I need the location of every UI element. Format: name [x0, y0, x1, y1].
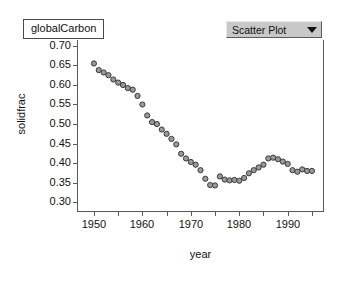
data-point: [111, 77, 116, 82]
data-point: [193, 162, 198, 167]
y-tick-label: 0.65: [29, 59, 71, 70]
scatter-plot-app: globalCarbon Scatter Plot 0.300.350.400.…: [0, 0, 339, 281]
data-point: [130, 87, 135, 92]
data-point: [169, 136, 174, 141]
data-point: [203, 176, 208, 181]
x-tick-label: 1970: [171, 218, 211, 230]
data-point: [101, 70, 106, 75]
data-point: [285, 161, 290, 166]
data-point: [106, 73, 111, 78]
dataset-title: globalCarbon: [23, 19, 104, 39]
data-point: [309, 168, 314, 173]
data-point: [154, 121, 159, 126]
data-point: [188, 159, 193, 164]
data-point: [246, 171, 251, 176]
x-tick-label: 1990: [268, 218, 308, 230]
chevron-down-icon: [307, 27, 317, 33]
x-tick-label: 1980: [219, 218, 259, 230]
y-tick-label: 0.70: [29, 40, 71, 51]
data-point: [241, 175, 246, 180]
data-point: [232, 177, 237, 182]
data-point: [164, 131, 169, 136]
data-point: [120, 82, 125, 87]
plot-type-label: Scatter Plot: [232, 24, 303, 36]
data-point: [159, 127, 164, 132]
data-point: [91, 61, 96, 66]
x-tick-label: 1950: [74, 218, 114, 230]
data-point: [222, 177, 227, 182]
data-point: [198, 168, 203, 173]
data-point: [261, 162, 266, 167]
x-tick-label: 1960: [122, 218, 162, 230]
scatter-data-points: [77, 40, 325, 213]
data-point: [140, 102, 145, 107]
y-tick-label: 0.60: [29, 79, 71, 90]
y-tick-label: 0.30: [29, 196, 71, 207]
y-tick-label: 0.35: [29, 177, 71, 188]
y-tick-label: 0.40: [29, 157, 71, 168]
data-point: [183, 156, 188, 161]
x-axis-label: year: [77, 248, 324, 260]
data-point: [251, 168, 256, 173]
data-point: [145, 113, 150, 118]
data-point: [212, 183, 217, 188]
data-point: [237, 178, 242, 183]
y-tick-label: 0.55: [29, 98, 71, 109]
data-point: [217, 174, 222, 179]
y-tick-label: 0.45: [29, 138, 71, 149]
data-point: [266, 156, 271, 161]
y-tick-label: 0.50: [29, 118, 71, 129]
data-point: [135, 93, 140, 98]
data-point: [256, 165, 261, 170]
y-axis-label: solidfrac: [15, 74, 27, 154]
data-point: [179, 151, 184, 156]
data-point: [174, 142, 179, 147]
plot-type-dropdown[interactable]: Scatter Plot: [226, 21, 322, 38]
